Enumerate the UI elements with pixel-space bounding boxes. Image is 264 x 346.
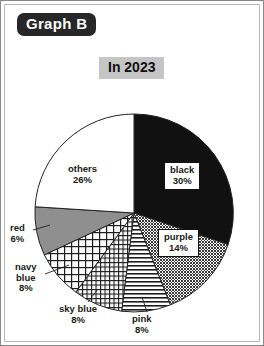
pie-label-red: red 6% [10, 223, 25, 244]
pie-label-navy-blue-name-line1: navy [15, 261, 37, 272]
pie-label-navy-blue-pct: 8% [15, 283, 37, 294]
pie-label-sky-blue: sky blue 8% [59, 304, 97, 325]
pie-label-sky-blue-pct: 8% [59, 315, 97, 326]
pie-label-pink-name: pink [132, 313, 152, 324]
pie-label-pink: pink 8% [132, 314, 152, 335]
pie-label-navy-blue: navy blue 8% [15, 262, 37, 294]
pie-chart [1, 1, 264, 346]
pie-label-red-name: red [10, 222, 25, 233]
pie-label-others-pct: 26% [68, 175, 97, 186]
pie-label-others-name: others [68, 163, 97, 174]
pie-label-sky-blue-name: sky blue [59, 303, 97, 314]
pie-chart-svg [1, 1, 264, 346]
pie-label-red-pct: 6% [10, 234, 25, 245]
pie-label-purple: purple 14% [158, 229, 199, 257]
pie-label-purple-name: purple [164, 231, 193, 242]
chart-frame: Graph B In 2023 [0, 0, 264, 346]
pie-label-pink-pct: 8% [132, 325, 152, 336]
pie-label-purple-pct: 14% [164, 243, 193, 254]
pie-label-black-pct: 30% [170, 176, 194, 187]
pie-label-black: black 30% [164, 162, 200, 190]
pie-label-others: others 26% [68, 164, 97, 185]
pie-label-black-name: black [170, 164, 194, 175]
